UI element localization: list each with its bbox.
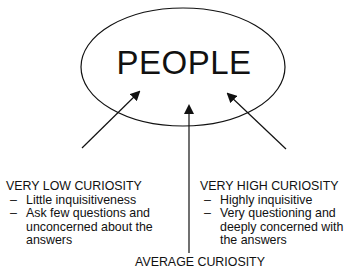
arrow-low <box>82 92 139 148</box>
center-label: PEOPLE <box>82 44 286 82</box>
very-high-point: Highly inquisitive <box>200 194 356 208</box>
very-low-heading: VERY LOW CURIOSITY <box>6 180 171 194</box>
very-low-curiosity-block: VERY LOW CURIOSITY Little inquisitivenes… <box>6 180 171 248</box>
arrow-high <box>228 94 286 149</box>
very-high-heading: VERY HIGH CURIOSITY <box>200 180 356 194</box>
very-low-point: Ask few questions and unconcerned about … <box>6 207 171 248</box>
average-curiosity-heading: AVERAGE CURIOSITY <box>115 255 285 267</box>
very-high-point: Very questioning and deeply concerned wi… <box>200 207 356 248</box>
very-high-curiosity-block: VERY HIGH CURIOSITY Highly inquisitive V… <box>200 180 356 248</box>
very-low-point: Little inquisitiveness <box>6 194 171 208</box>
